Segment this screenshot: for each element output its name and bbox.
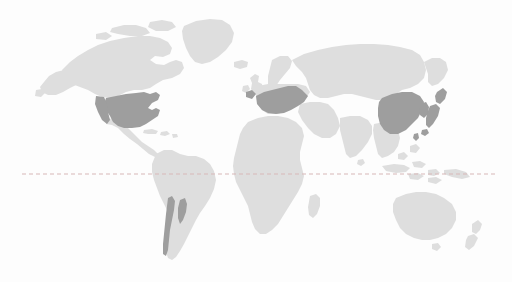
region-madagascar <box>308 194 320 218</box>
region-sri-lanka <box>357 159 365 166</box>
region-australia <box>393 192 456 240</box>
region-taiwan-highlight <box>413 133 419 141</box>
region-tasmania <box>432 243 441 251</box>
region-canada <box>62 36 184 98</box>
region-new-zealand <box>465 220 482 250</box>
region-caribbean <box>143 129 178 138</box>
world-map: World map with highlighted regions equat… <box>0 0 512 282</box>
region-kamchatka <box>424 58 448 86</box>
region-africa <box>233 116 304 234</box>
region-greenland <box>182 19 234 64</box>
region-china-highlight <box>378 92 424 134</box>
region-scandinavia <box>268 56 292 88</box>
region-iceland <box>234 60 248 69</box>
region-russia <box>292 44 426 100</box>
region-middle-east <box>298 102 340 138</box>
region-india <box>340 116 372 158</box>
world-map-svg <box>0 0 512 282</box>
